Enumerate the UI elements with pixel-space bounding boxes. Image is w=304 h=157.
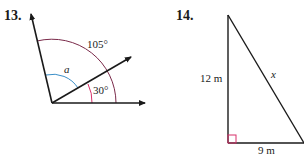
inner-angle-arc (88, 84, 92, 103)
outer-angle-label: 105° (87, 38, 108, 50)
unknown-angle-label: a (64, 63, 70, 75)
hypotenuse-label: x (271, 68, 276, 80)
upper-ray (31, 14, 52, 103)
inner-angle-label: 30° (93, 84, 108, 96)
vertical-side-label: 12 m (200, 72, 222, 84)
right-angle-marker (228, 135, 236, 143)
angle-diagram (0, 0, 304, 157)
base-label: 9 m (258, 144, 275, 156)
right-triangle (228, 15, 304, 143)
unknown-angle-arc (46, 74, 78, 88)
